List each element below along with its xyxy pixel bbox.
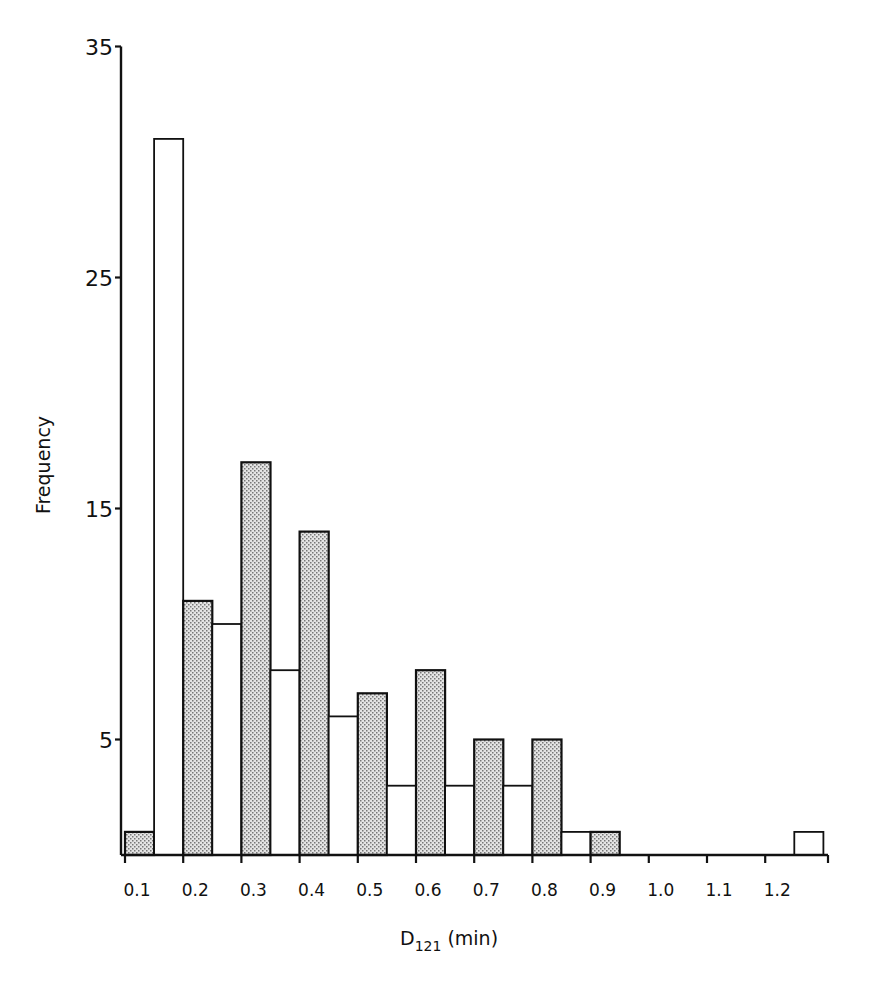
bar-shaded-0.5	[358, 693, 387, 855]
bar-open-0.2	[212, 624, 241, 855]
x-axis-title: D121 (min)	[400, 927, 498, 954]
y-axis-title: Frequency	[32, 416, 54, 514]
x-tick-label: 0.9	[589, 880, 616, 900]
x-tick-label: 0.5	[356, 880, 383, 900]
y-tick-label: 25	[85, 266, 113, 291]
x-tick-label: 1.0	[647, 880, 674, 900]
x-tick-labels: 0.10.20.30.40.50.60.70.80.91.01.11.2	[123, 880, 790, 900]
y-tick-label: 35	[85, 35, 113, 60]
x-tick-label: 0.8	[531, 880, 558, 900]
bar-open-0.7	[503, 786, 532, 855]
x-tick-label: 0.3	[240, 880, 267, 900]
bar-shaded-0.3	[241, 462, 270, 855]
x-axis-title-unit: (min)	[441, 927, 498, 949]
x-tick-label: 0.1	[123, 880, 150, 900]
x-tick-label: 0.6	[414, 880, 441, 900]
x-axis-title-sub: 121	[415, 938, 442, 954]
bar-shaded-0.7	[474, 740, 503, 856]
bar-shaded-0.4	[300, 532, 329, 855]
y-tick-label: 15	[85, 497, 113, 522]
x-tick-label: 0.2	[182, 880, 209, 900]
bar-shaded-0.9	[591, 832, 620, 855]
bar-shaded-0.2	[183, 601, 212, 855]
bar-open-0.5	[387, 786, 416, 855]
y-tick-labels: 5152535	[85, 35, 113, 753]
bar-shaded-0.8	[532, 740, 561, 856]
bars-group	[125, 139, 823, 855]
bar-open-0.1	[154, 139, 183, 855]
x-tick-label: 1.2	[764, 880, 791, 900]
x-tick-label: 1.1	[705, 880, 732, 900]
x-tick-label: 0.4	[298, 880, 325, 900]
histogram-chart: 5152535 0.10.20.30.40.50.60.70.80.91.01.…	[0, 0, 881, 1000]
x-tick-label: 0.7	[473, 880, 500, 900]
y-tick-label: 5	[99, 728, 113, 753]
bar-open-1.2	[794, 832, 823, 855]
bar-open-0.3	[271, 670, 300, 855]
bar-shaded-0.1	[125, 832, 154, 855]
bar-shaded-0.6	[416, 670, 445, 855]
bar-open-0.6	[445, 786, 474, 855]
bar-open-0.8	[562, 832, 591, 855]
bar-open-0.4	[329, 716, 358, 855]
x-axis-title-main: D	[400, 927, 415, 949]
